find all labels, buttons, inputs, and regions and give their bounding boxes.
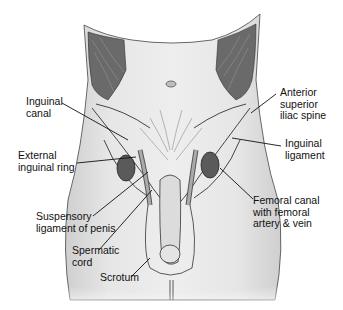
right-femoral-canal — [201, 152, 219, 178]
label-scrotum: Scrotum — [100, 272, 139, 284]
label-suspensory-ligament: Suspensory ligament of penis — [36, 211, 115, 234]
label-external-inguinal-ring: External inguinal ring — [18, 150, 75, 173]
label-anterior-superior-iliac-spine: Anterior superior iliac spine — [280, 87, 326, 122]
label-spermatic-cord: Spermatic cord — [72, 245, 119, 268]
anatomy-diagram: Inguinal canal External inguinal ring Su… — [0, 0, 343, 310]
navel — [166, 81, 176, 87]
label-femoral-canal: Femoral canal with femoral artery & vein — [253, 195, 320, 230]
label-inguinal-ligament: Inguinal ligament — [285, 138, 325, 161]
label-inguinal-canal: Inguinal canal — [26, 96, 63, 119]
